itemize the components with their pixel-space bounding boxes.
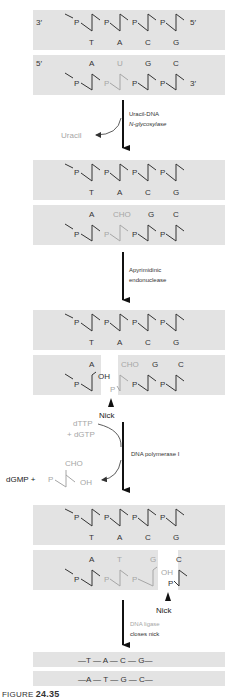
svg-text:P: P — [160, 168, 165, 177]
oh-3prime-label: OH — [161, 568, 173, 577]
repaired-bottom-strand: —A — T — G — C— — [78, 675, 153, 684]
svg-text:P: P — [160, 79, 165, 88]
svg-text:P: P — [104, 18, 109, 27]
step-3-polymerase: dTTP + dGTP DNA polymerase I dGMP + P CH… — [6, 419, 180, 490]
svg-text:P: P — [160, 230, 165, 239]
enzyme-label-2: closes nick — [130, 631, 160, 637]
enzyme-label-2: endonuclease — [129, 277, 167, 283]
base-A: A — [117, 38, 123, 47]
product-cho: CHO — [65, 459, 83, 468]
product-oh: OH — [80, 478, 92, 487]
panel-1-duplex-with-uracil: 3′ PPPP 5′ T A C G 5′ P P P P 3′ A U G — [33, 10, 225, 95]
base-C: C — [145, 38, 151, 47]
svg-text:P: P — [132, 230, 137, 239]
p-5prime-label: P — [110, 385, 115, 394]
svg-text:P: P — [160, 18, 165, 27]
svg-text:T: T — [89, 338, 94, 347]
product-label: dGMP + — [6, 475, 36, 484]
svg-text:P: P — [104, 575, 109, 584]
svg-text:P: P — [74, 575, 79, 584]
svg-text:C: C — [145, 338, 151, 347]
svg-text:P: P — [132, 18, 137, 27]
band-bottom — [33, 55, 225, 95]
svg-text:P: P — [74, 18, 79, 27]
svg-text:P: P — [104, 230, 109, 239]
svg-text:G: G — [148, 210, 154, 219]
repaired-top-strand: —T — A — C — G— — [78, 656, 153, 665]
svg-text:P: P — [132, 318, 137, 327]
figure-caption: FIGURE 24.35 — [2, 689, 59, 699]
svg-text:G: G — [152, 360, 158, 369]
svg-text:T: T — [89, 188, 94, 197]
svg-text:P: P — [74, 168, 79, 177]
svg-text:P: P — [104, 513, 109, 522]
svg-text:C: C — [176, 555, 182, 564]
svg-text:P: P — [74, 79, 79, 88]
svg-text:C: C — [173, 210, 179, 219]
base-G: G — [145, 59, 151, 68]
enzyme-label: Apyrimidinic — [129, 267, 161, 273]
p-5prime-label: P — [168, 579, 173, 588]
base-A: A — [89, 59, 95, 68]
deoxyribose-phosphate-icon — [55, 470, 75, 487]
release-arrow-icon — [96, 118, 121, 135]
enzyme-label: DNA polymerase I — [131, 451, 180, 457]
product-out-arrow-icon — [102, 460, 121, 480]
end-label-3prime: 3′ — [190, 79, 196, 88]
svg-text:A: A — [117, 188, 123, 197]
panel-2-ap-site: PPPP T A C G P P P P A CHO G C — [33, 160, 225, 245]
svg-text:G: G — [173, 533, 179, 542]
step-1-glycosylase: Uracil Uracil-DNA N-glycosylase — [61, 100, 167, 148]
svg-text:P: P — [132, 575, 137, 584]
svg-text:P: P — [132, 513, 137, 522]
svg-text:P: P — [104, 79, 109, 88]
svg-text:P: P — [74, 380, 79, 389]
end-label-3prime: 3′ — [36, 18, 42, 27]
base-G: G — [173, 38, 179, 47]
base-C: C — [173, 59, 179, 68]
svg-text:P: P — [74, 513, 79, 522]
svg-text:A: A — [117, 533, 123, 542]
svg-text:G: G — [173, 188, 179, 197]
nick-label: Nick — [99, 411, 116, 420]
repaired-duplex: —T — A — C — G— —A — T — G — C— — [33, 652, 225, 686]
svg-text:P: P — [74, 318, 79, 327]
svg-text:P: P — [74, 230, 79, 239]
svg-text:T: T — [89, 533, 94, 542]
panel-3-nicked: PPPP T A C G P OH P P P A CHO G C Nick — [33, 310, 225, 420]
svg-text:P: P — [160, 380, 165, 389]
svg-text:A: A — [89, 555, 95, 564]
base-T: T — [89, 38, 94, 47]
enzyme-label-2: N-glycosylase — [129, 121, 167, 127]
end-label-5prime: 5′ — [190, 18, 196, 27]
svg-text:A: A — [117, 338, 123, 347]
end-label-5prime: 5′ — [36, 59, 42, 68]
product-phosphate: P — [48, 475, 53, 484]
panel-4-filled: PPPP T A C G P P P OH P A T G C Nick — [33, 505, 225, 615]
svg-text:P: P — [132, 168, 137, 177]
svg-text:P: P — [132, 380, 137, 389]
svg-text:C: C — [178, 360, 184, 369]
svg-text:T: T — [117, 555, 122, 564]
svg-text:A: A — [89, 210, 95, 219]
svg-text:P: P — [160, 513, 165, 522]
svg-text:G: G — [173, 338, 179, 347]
nick-pointer-icon — [165, 592, 171, 601]
band-top — [33, 10, 225, 50]
substrate-in-arrow-icon — [98, 424, 121, 447]
svg-text:A: A — [89, 360, 95, 369]
svg-text:CHO: CHO — [121, 360, 139, 369]
svg-text:C: C — [145, 533, 151, 542]
base-U-uracil: U — [117, 59, 123, 68]
substrate-label-2: + dGTP — [67, 430, 95, 439]
cho-ap-site-label: CHO — [113, 210, 131, 219]
svg-text:P: P — [132, 79, 137, 88]
svg-text:P: P — [160, 318, 165, 327]
svg-text:G: G — [150, 555, 156, 564]
dna-repair-diagram: 3′ PPPP 5′ T A C G 5′ P P P P 3′ A U G — [0, 0, 236, 700]
substrate-label: dTTP — [73, 419, 93, 428]
nick-label: Nick — [156, 606, 173, 615]
svg-text:C: C — [145, 188, 151, 197]
svg-text:P: P — [104, 168, 109, 177]
enzyme-label: Uracil-DNA — [129, 111, 159, 117]
